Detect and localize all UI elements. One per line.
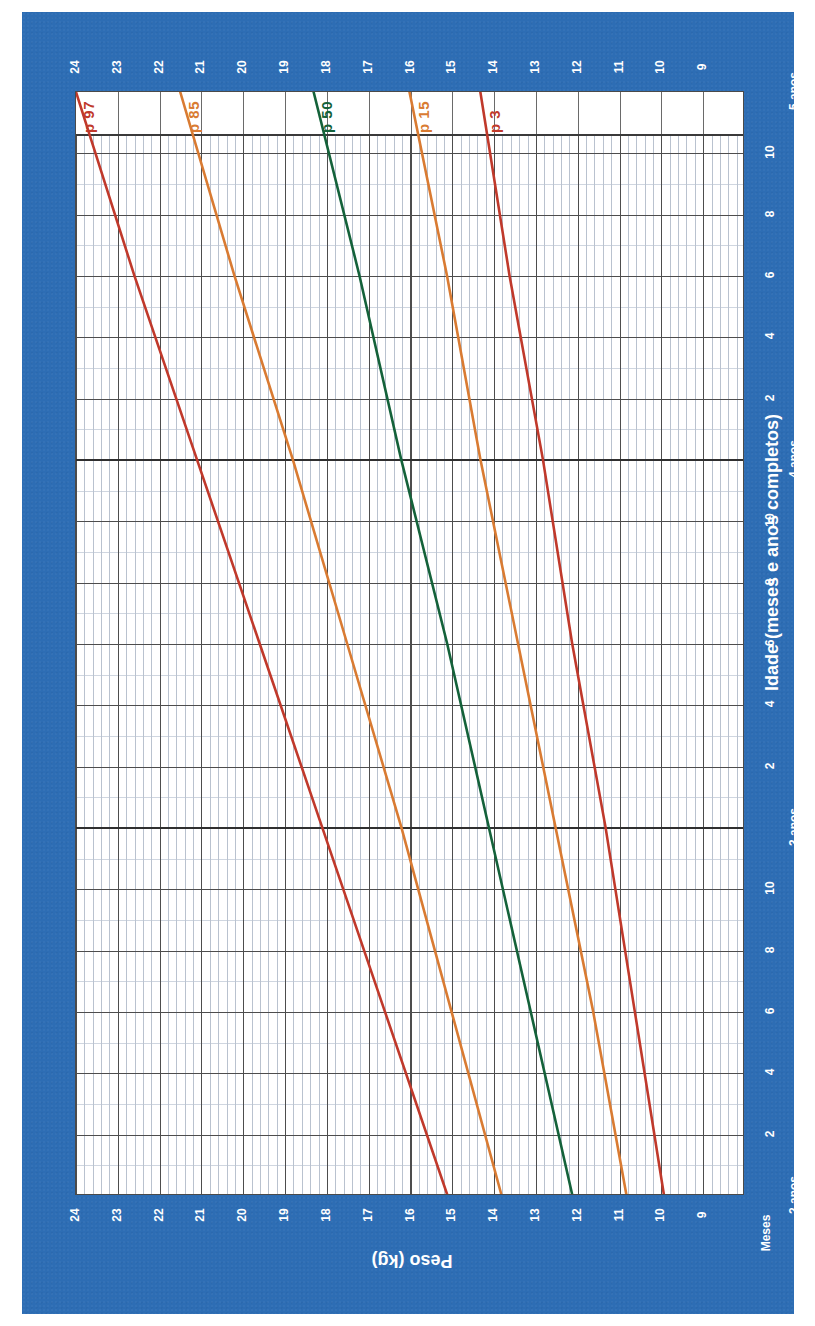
weight-tick-16: 16 (403, 1195, 417, 1235)
weight-tick-22: 22 (152, 47, 166, 87)
p-97-label: p 97 (80, 101, 97, 133)
age-tick-month-34: 10 (763, 868, 777, 908)
age-tick-month-26: 2 (763, 1114, 777, 1154)
p-3-label: p 3 (486, 110, 503, 133)
weight-tick-23: 23 (110, 1195, 124, 1235)
weight-tick-11: 11 (612, 47, 626, 87)
weight-tick-15: 15 (444, 1195, 458, 1235)
weight-tick-17: 17 (361, 1195, 375, 1235)
weight-tick-13: 13 (528, 1195, 542, 1235)
weight-tick-14: 14 (486, 1195, 500, 1235)
age-tick-month-28: 4 (763, 1052, 777, 1092)
chart-card: De 2 a 5 anos (percentis) 24232221201918… (22, 12, 794, 1314)
weight-tick-24: 24 (68, 47, 82, 87)
weight-tick-20: 20 (235, 47, 249, 87)
age-tick-4-anos: 4 anos (787, 427, 801, 491)
age-tick-2-anos: 2 anos (787, 1163, 801, 1227)
age-tick-month-38: 2 (763, 746, 777, 786)
weight-tick-19: 19 (277, 47, 291, 87)
weight-tick-11: 11 (612, 1195, 626, 1235)
curve-p-97 (76, 92, 447, 1194)
plot-area (75, 91, 744, 1195)
age-axis-label: Idade (meses e anos completos) (762, 363, 783, 743)
weight-tick-19: 19 (277, 1195, 291, 1235)
age-tick-5-anos: 5 anos (787, 59, 801, 123)
weight-tick-23: 23 (110, 47, 124, 87)
weight-tick-20: 20 (235, 1195, 249, 1235)
age-tick-month-52: 4 (763, 316, 777, 356)
curve-p-15 (410, 92, 627, 1194)
age-tick-month-32: 8 (763, 930, 777, 970)
weight-tick-10: 10 (653, 1195, 667, 1235)
weight-tick-17: 17 (361, 47, 375, 87)
weight-tick-18: 18 (319, 47, 333, 87)
weight-axis-label: Peso (kg) (252, 1250, 572, 1271)
weight-tick-9: 9 (695, 47, 709, 87)
age-tick-3-anos: 3 anos (787, 795, 801, 859)
weight-tick-24: 24 (68, 1195, 82, 1235)
weight-tick-10: 10 (653, 47, 667, 87)
weight-tick-18: 18 (319, 1195, 333, 1235)
p-50-label: p 50 (318, 101, 335, 133)
months-axis-label: Meses (759, 1215, 773, 1252)
percentile-curves (76, 92, 743, 1194)
age-tick-month-30: 6 (763, 991, 777, 1031)
weight-tick-22: 22 (152, 1195, 166, 1235)
weight-tick-13: 13 (528, 47, 542, 87)
weight-tick-9: 9 (695, 1195, 709, 1235)
curve-p-85 (180, 92, 501, 1194)
age-tick-month-54: 6 (763, 255, 777, 295)
weight-tick-12: 12 (570, 1195, 584, 1235)
growth-chart-page: De 2 a 5 anos (percentis) 24232221201918… (0, 0, 815, 1326)
weight-tick-15: 15 (444, 47, 458, 87)
weight-tick-14: 14 (486, 47, 500, 87)
weight-tick-21: 21 (193, 1195, 207, 1235)
weight-tick-16: 16 (403, 47, 417, 87)
age-tick-month-58: 10 (763, 132, 777, 172)
age-tick-month-56: 8 (763, 194, 777, 234)
p-85-label: p 85 (185, 101, 202, 133)
p-15-label: p 15 (415, 101, 432, 133)
curve-p-3 (480, 92, 663, 1194)
weight-tick-21: 21 (193, 47, 207, 87)
weight-tick-12: 12 (570, 47, 584, 87)
